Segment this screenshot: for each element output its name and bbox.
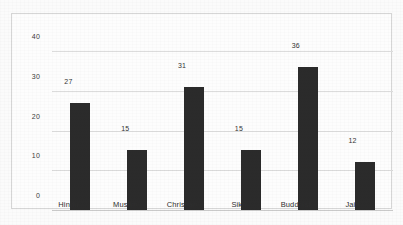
x-axis-category-label-jain: Jain — [326, 201, 380, 209]
bar-value-label-hindu: 27 — [53, 78, 83, 85]
y-axis-tick-label-10: 10 — [14, 152, 40, 159]
bar-hindu[interactable] — [70, 103, 90, 210]
y-axis-tick-label-20: 20 — [14, 113, 40, 120]
y-axis: 010203040 — [11, 0, 40, 225]
bar-buddhist[interactable] — [298, 67, 318, 210]
plot-area — [52, 51, 393, 210]
bar-value-label-buddhist: 36 — [281, 42, 311, 49]
gridline-30 — [52, 91, 393, 92]
y-axis-tick-label-40: 40 — [14, 33, 40, 40]
y-axis-tick-label-30: 30 — [14, 73, 40, 80]
bar-value-label-jain: 12 — [338, 137, 368, 144]
gridline-20 — [52, 131, 393, 132]
bar-christian[interactable] — [184, 87, 204, 210]
x-axis-category-label-muslim: Muslim — [98, 201, 152, 209]
bar-value-label-muslim: 15 — [110, 125, 140, 132]
gridline-40 — [52, 51, 393, 52]
x-axis-category-label-buddhist: Buddhist — [269, 201, 323, 209]
bar-value-label-christian: 31 — [167, 62, 197, 69]
x-axis-category-label-christian: Christian — [155, 201, 209, 209]
x-axis-category-label-sikh: Sikh — [212, 201, 266, 209]
bar-value-label-sikh: 15 — [224, 125, 254, 132]
x-axis: HinduMuslimChristianSikhBuddhistJain — [0, 198, 403, 212]
chart-plot-frame — [11, 13, 392, 209]
gridline-10 — [52, 170, 393, 171]
x-axis-category-label-hindu: Hindu — [41, 201, 95, 209]
